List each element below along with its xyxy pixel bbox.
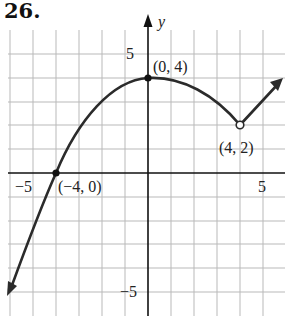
axes	[8, 22, 285, 316]
label-point-4-2: (4, 2)	[219, 139, 254, 157]
left-end-arrow-icon	[7, 281, 17, 296]
point-0-4-closed	[144, 74, 151, 81]
point-neg4-0-closed	[52, 169, 59, 176]
label-point-neg4-0: (−4, 0)	[58, 178, 102, 196]
point-4-2-open	[236, 121, 244, 129]
function-graph: y 5 −5 −5 5 (0, 4) (−4, 0) (4, 2)	[0, 0, 285, 316]
x-tick-5: 5	[258, 178, 266, 195]
y-tick-5: 5	[126, 45, 134, 62]
label-point-0-4: (0, 4)	[153, 58, 188, 76]
y-axis-arrow-icon	[144, 14, 153, 27]
function-curve	[10, 78, 278, 290]
y-tick-neg5: −5	[120, 283, 137, 300]
x-tick-neg5: −5	[15, 178, 32, 195]
y-axis-label: y	[156, 13, 166, 31]
